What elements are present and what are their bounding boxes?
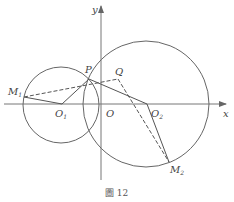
diagram: y x O P Q O1 O2 M1 M2 圖 12 [0, 0, 234, 202]
label-p: P [84, 64, 92, 75]
label-m1: M1 [7, 86, 22, 98]
label-y: y [91, 4, 98, 15]
label-o2: O2 [151, 108, 163, 120]
label-origin: O [106, 108, 114, 119]
label-o1: O1 [55, 108, 67, 120]
label-q: Q [115, 66, 123, 77]
segment-m1-q [24, 79, 118, 97]
segment-q-m2 [118, 79, 169, 162]
label-m2: M2 [169, 164, 184, 176]
figure-caption: 圖 12 [105, 188, 128, 198]
circle-o1 [23, 67, 99, 143]
label-x: x [223, 108, 229, 119]
segment-m1-o1 [24, 97, 62, 104]
segment-o1-p [62, 79, 89, 104]
